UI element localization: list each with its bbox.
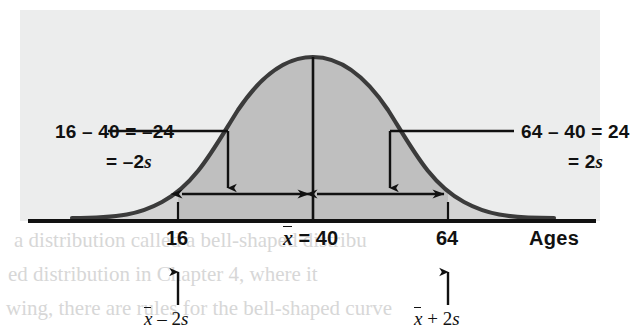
left-annotation-line2-prefix: = –2 [106,151,144,172]
axis-title-ages: Ages [529,228,579,248]
left-annotation-line1: 16 – 40 = –24 [55,122,174,141]
footer-label-right: x + 2s [414,309,460,328]
footer-right-tail: s [452,308,459,329]
footer-left-tail: s [181,308,188,329]
footer-left-suffix: – 2 [152,308,181,329]
footer-right-suffix: + 2 [422,308,452,329]
right-annotation-line2-prefix: = 2 [568,151,596,172]
axis-tick-label-64: 64 [436,228,458,248]
mean-label: x = 40 [283,228,338,248]
left-annotation-line2: = –2s [106,152,152,171]
left-annotation-line2-symbol: s [144,151,152,172]
right-annotation-line2: = 2s [568,152,603,171]
footer-left-symbol: x [144,309,152,328]
axis-tick-label-16: 16 [166,228,188,248]
right-annotation-line2-symbol: s [596,151,604,172]
right-annotation-line1: 64 – 40 = 24 [521,122,630,141]
mean-label-symbol: x [283,228,293,248]
footer-label-left: x – 2s [144,309,188,328]
footer-right-symbol: x [414,309,422,328]
mean-label-suffix: = 40 [293,227,338,249]
